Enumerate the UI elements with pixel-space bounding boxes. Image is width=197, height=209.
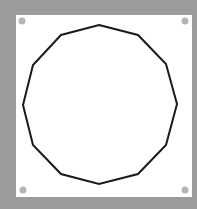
- diagram-stage: [0, 0, 197, 209]
- corner-dot-top-right: [182, 18, 189, 25]
- corner-dot-top-left: [19, 18, 26, 25]
- white-panel: [16, 15, 192, 197]
- corner-dot-bottom-left: [20, 187, 27, 194]
- corner-dot-bottom-right: [182, 187, 189, 194]
- diagram-canvas: [0, 0, 197, 209]
